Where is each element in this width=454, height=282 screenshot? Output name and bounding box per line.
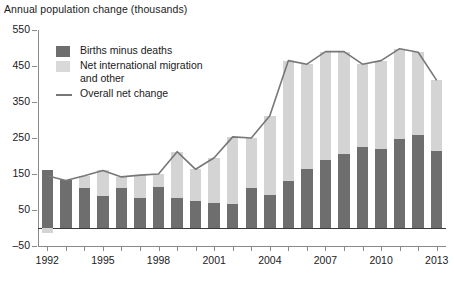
x-tick-mark	[418, 247, 419, 251]
x-tick-mark	[103, 247, 104, 251]
x-tick-mark	[121, 247, 122, 251]
x-tick-mark	[363, 247, 364, 251]
y-tick-mark	[32, 138, 37, 139]
x-tick-mark	[400, 247, 401, 251]
legend-item-births-minus-deaths: Births minus deaths	[56, 44, 203, 57]
x-tick-mark	[288, 247, 289, 251]
x-tick-mark	[66, 247, 67, 251]
x-tick-mark	[344, 247, 345, 251]
x-tick-label: 2013	[425, 254, 448, 266]
legend-item-net-international-migration: Net international migration and other	[56, 59, 203, 85]
x-tick-label: 2010	[369, 254, 392, 266]
x-tick-mark	[140, 247, 141, 251]
x-tick-mark	[159, 247, 160, 251]
x-tick-mark	[214, 247, 215, 251]
x-tick-mark	[233, 247, 234, 251]
y-tick-mark	[32, 66, 37, 67]
y-tick-label: 50	[18, 203, 30, 215]
y-tick-label: 450	[12, 59, 30, 71]
x-tick-mark	[47, 247, 48, 251]
x-tick-mark	[325, 247, 326, 251]
y-tick-mark	[32, 30, 37, 31]
x-tick-mark	[251, 247, 252, 251]
y-tick-mark	[32, 246, 37, 247]
chart-title: Annual population change (thousands)	[4, 3, 187, 15]
x-tick-mark	[196, 247, 197, 251]
x-tick-label: 2007	[314, 254, 337, 266]
legend-label-overall-net-change: Overall net change	[80, 87, 203, 100]
y-tick-mark	[32, 174, 37, 175]
y-tick-label: –50	[12, 239, 30, 251]
x-tick-label: 2001	[202, 254, 225, 266]
x-tick-label: 1995	[91, 254, 114, 266]
x-tick-mark	[177, 247, 178, 251]
y-tick-label: 150	[12, 167, 30, 179]
y-tick-label: 550	[12, 23, 30, 35]
x-tick-mark	[437, 247, 438, 251]
x-tick-mark	[84, 247, 85, 251]
legend-label-net-international-migration: Net international migration and other	[80, 59, 203, 85]
y-tick-label: 250	[12, 131, 30, 143]
x-tick-mark	[270, 247, 271, 251]
legend-item-overall-net-change: Overall net change	[56, 87, 203, 100]
x-tick-mark	[381, 247, 382, 251]
x-tick-label: 1998	[147, 254, 170, 266]
x-tick-label: 2004	[258, 254, 281, 266]
legend-swatch-dark-icon	[56, 46, 70, 57]
y-tick-mark	[32, 210, 37, 211]
population-change-chart: Annual population change (thousands) –50…	[0, 0, 454, 282]
x-tick-label: 1992	[36, 254, 59, 266]
x-axis-line	[38, 246, 446, 247]
y-tick-label: 350	[12, 95, 30, 107]
legend-label-births-minus-deaths: Births minus deaths	[80, 44, 203, 57]
legend-line-icon	[56, 94, 72, 96]
x-tick-mark	[307, 247, 308, 251]
chart-legend: Births minus deaths Net international mi…	[56, 44, 203, 102]
y-tick-mark	[32, 102, 37, 103]
legend-swatch-light-icon	[56, 61, 70, 72]
